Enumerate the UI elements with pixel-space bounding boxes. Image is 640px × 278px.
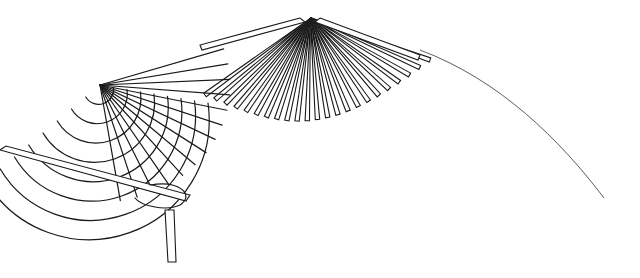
- needle-strand: [0, 146, 190, 262]
- spoke-fan: [200, 18, 431, 122]
- woven-fan: [0, 49, 230, 240]
- basketry-illustration: [0, 0, 640, 278]
- weft-strand: [29, 96, 168, 181]
- warp-strand: [100, 49, 224, 85]
- weft-strand: [0, 101, 195, 221]
- warp-strand: [100, 85, 215, 139]
- thread-line: [420, 50, 604, 198]
- weft-strand: [57, 92, 141, 143]
- weft-strand: [72, 90, 128, 124]
